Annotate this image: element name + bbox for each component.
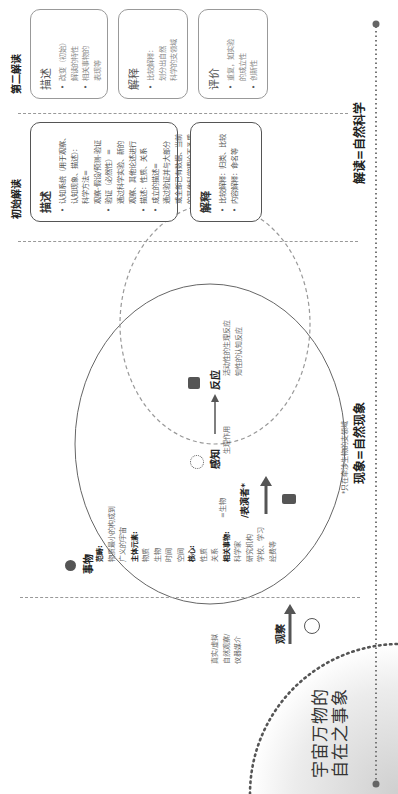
box-line: 表现等 — [92, 18, 104, 81]
box-line: 通过验证并与大部分 — [161, 131, 173, 204]
second-evaluate-heading: 评价 — [205, 18, 221, 90]
thing-title: 事物 — [80, 554, 95, 574]
magnifier-icon — [304, 618, 320, 634]
box-line: 观察-假设/预测-验证 — [92, 131, 104, 204]
box-line: 内容解释：命名等 — [229, 131, 241, 204]
thing-scope-label: 范畴: — [95, 442, 107, 562]
thing-element: 物质 — [141, 442, 153, 562]
observe-label: 观察 — [272, 624, 287, 644]
box-line: 创新性 — [248, 18, 260, 81]
box-line: 或全部已有数据、当前 — [173, 131, 185, 204]
initial-describe-box: 描述 认知系统（用于观察、认知现象、描述）：科学方法=观察-假设/预测-验证验证… — [30, 122, 178, 222]
observe-bullet: 真实/虚拟 — [210, 634, 222, 664]
apple-icon — [65, 560, 76, 571]
second-describe-box: 描述 改变（初始）解读的特性相关事物的表现等 — [30, 9, 108, 99]
universe-line-1: 宇宙万物的 — [310, 688, 330, 778]
box-line: 解读的特性 — [69, 18, 81, 81]
diagram-canvas: 宇宙万物的 自在之事象 真实/虚拟 自然观察/ 仪器媒介 观察 事物 范畴: 物… — [0, 0, 398, 794]
sensing-icon — [190, 455, 204, 469]
separator-second — [18, 113, 348, 114]
thing-elements-label: 主体元素: — [130, 442, 142, 562]
box-line: 重复，如实验 — [225, 18, 237, 81]
box-line: 比较解释：归类、比较 — [217, 131, 229, 204]
person-icon — [282, 494, 296, 504]
separator-interpret — [18, 241, 358, 242]
box-line: 科学方法= — [80, 131, 92, 204]
second-explain-box: 解释 比较解释：划分出自然科学的支领域 — [118, 9, 188, 99]
reaction-bullet: 活动性的生理反应 — [222, 320, 234, 376]
thing-related: 经费等 — [268, 442, 280, 562]
actor-eq: =生物 — [218, 498, 230, 518]
thing-scope-line: 物质最小的构成到 — [107, 442, 119, 562]
observe-bullet: 仪器媒介 — [233, 634, 245, 664]
thing-scope-line: 广义的宇宙 — [118, 442, 130, 562]
footer-interpretation: 解读=自然科学 — [350, 102, 367, 184]
thing-element: 空间 — [176, 442, 188, 562]
box-line: 的成立性 — [237, 18, 249, 81]
observe-bullets: 真实/虚拟 自然观察/ 仪器媒介 — [210, 634, 245, 664]
perception-bullet: 生理作用 — [222, 426, 234, 454]
reaction-label: 反应 — [207, 370, 222, 390]
thing-details: 范畴: 物质最小的构成到 广义的宇宙 主体元素: 物质 生物 时间 空间 核心:… — [95, 442, 279, 562]
initial-title: 初始解读 — [8, 179, 23, 219]
box-line: 认知现象、描述）： — [69, 131, 81, 204]
box-line: 改变（初始） — [57, 18, 69, 81]
thing-related: 学校、学习 — [256, 442, 268, 562]
box-line: 验证（必然性）= — [103, 131, 115, 204]
second-evaluate-box: 评价 重复，如实验的成立性创新性 — [198, 9, 268, 99]
initial-explain-heading: 解释 — [197, 131, 213, 213]
reaction-bullets: 活动性的生理反应 知性的认知反应 — [222, 320, 245, 376]
signal-person-icon — [188, 377, 200, 389]
box-line: 成立的描述= — [150, 131, 162, 204]
thing-element: 生物 — [153, 442, 165, 562]
initial-explain-box: 解释 比较解释：归类、比较内容解释：命名等 — [190, 122, 262, 222]
box-line: 通过科学实验、新的 — [115, 131, 127, 204]
thing-element: 时间 — [164, 442, 176, 562]
second-explain-heading: 解释 — [125, 18, 141, 90]
second-title: 第二解读 — [8, 54, 23, 94]
box-line: 划分出自然 — [157, 18, 169, 81]
perception-label: 感知 — [207, 449, 222, 469]
diagram-lines — [0, 0, 398, 794]
box-line: 认知系统（用于观察、 — [57, 131, 69, 204]
universe-line-2: 自在之事象 — [330, 688, 350, 778]
footer-phenomenon: 现象=自然现象 — [350, 402, 367, 484]
box-line: 描述：性质、关系 — [138, 131, 150, 204]
box-line: 科学的支领域 — [168, 18, 180, 81]
box-line: 相关事物的 — [80, 18, 92, 81]
second-describe-heading: 描述 — [37, 18, 53, 90]
actor-label: /表演者* — [238, 483, 251, 518]
universe-label: 宇宙万物的 自在之事象 — [310, 688, 350, 778]
separator-observe — [20, 597, 360, 598]
reaction-bullet: 知性的认知反应 — [234, 320, 246, 376]
initial-describe-heading: 描述 — [37, 131, 53, 213]
observe-bullet: 自然观察/ — [222, 634, 234, 664]
box-line: 观察、其他论述进行 — [127, 131, 139, 204]
box-line: 比较解释： — [145, 18, 157, 81]
